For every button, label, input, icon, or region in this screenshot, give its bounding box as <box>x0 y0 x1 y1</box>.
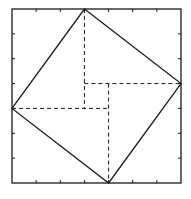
inner-tilted-square <box>12 9 181 183</box>
outer-frame <box>12 9 181 183</box>
outer-square <box>12 9 181 183</box>
tick-marks <box>12 9 181 183</box>
diagram-canvas <box>0 0 191 199</box>
dashed-construction-lines <box>12 9 181 183</box>
